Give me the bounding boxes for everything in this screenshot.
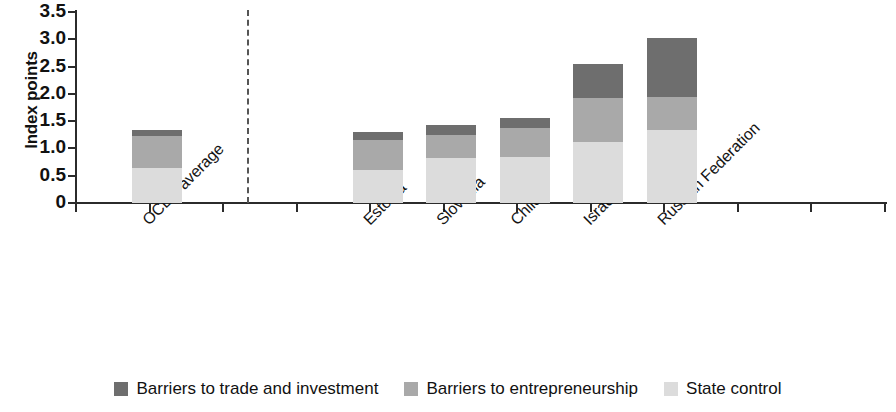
stacked-bar[interactable] (426, 125, 476, 203)
legend-label: State control (686, 379, 781, 399)
chart-legend: Barriers to trade and investmentBarriers… (0, 379, 896, 399)
stacked-bar[interactable] (132, 130, 182, 203)
bar-group[interactable] (132, 0, 182, 203)
bar-segment[interactable] (132, 168, 182, 203)
bar-segment[interactable] (353, 140, 403, 170)
legend-swatch-icon (114, 382, 128, 396)
legend-swatch-icon (664, 382, 678, 396)
bar-segment[interactable] (353, 170, 403, 203)
bar-segment[interactable] (647, 38, 697, 97)
bar-group[interactable] (353, 0, 403, 203)
bar-segment[interactable] (500, 157, 550, 203)
x-tick-mark (884, 203, 886, 212)
x-tick-mark (296, 203, 298, 212)
y-tick-label: 1.0 (6, 136, 66, 158)
legend-item[interactable]: Barriers to entrepreneurship (404, 379, 638, 399)
bar-segment[interactable] (426, 135, 476, 158)
bar-group[interactable] (500, 0, 550, 203)
legend-swatch-icon (404, 382, 418, 396)
legend-item[interactable]: Barriers to trade and investment (114, 379, 378, 399)
x-tick-mark (222, 203, 224, 212)
bar-segment[interactable] (573, 142, 623, 203)
y-tick-label: 2.5 (6, 55, 66, 77)
bar-segment[interactable] (353, 132, 403, 140)
bar-segment[interactable] (500, 118, 550, 128)
stacked-bar[interactable] (353, 132, 403, 203)
x-tick-mark (75, 203, 77, 212)
bar-segment[interactable] (573, 64, 623, 98)
stacked-bar[interactable] (500, 118, 550, 203)
bar-segment[interactable] (500, 128, 550, 157)
stacked-bar[interactable] (647, 38, 697, 203)
bar-group[interactable] (426, 0, 476, 203)
y-tick-label: 2.0 (6, 82, 66, 104)
bar-group[interactable] (647, 0, 697, 203)
y-tick-label: 3.0 (6, 27, 66, 49)
bar-segment[interactable] (647, 97, 697, 130)
x-tick-mark (810, 203, 812, 212)
stacked-bar-chart: Index points 00.51.01.52.02.53.03.5 OCED… (0, 0, 896, 412)
legend-label: Barriers to entrepreneurship (426, 379, 638, 399)
legend-item[interactable]: State control (664, 379, 781, 399)
legend-label: Barriers to trade and investment (136, 379, 378, 399)
bar-group[interactable] (573, 0, 623, 203)
bar-segment[interactable] (647, 130, 697, 203)
y-tick-label: 3.5 (6, 0, 66, 22)
stacked-bar[interactable] (573, 64, 623, 203)
bar-segment[interactable] (426, 158, 476, 203)
bar-segment[interactable] (132, 136, 182, 168)
bar-segment[interactable] (573, 98, 623, 142)
y-tick-label: 0 (6, 191, 66, 213)
y-tick-label: 1.5 (6, 109, 66, 131)
bar-segment[interactable] (426, 125, 476, 135)
y-tick-label: 0.5 (6, 164, 66, 186)
x-tick-mark (737, 203, 739, 212)
